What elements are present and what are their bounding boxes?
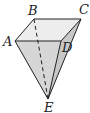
label-a: A	[2, 34, 12, 49]
label-c: C	[79, 2, 89, 17]
pyramid-diagram: A B C D E	[0, 0, 90, 113]
label-d: D	[61, 40, 73, 55]
label-e: E	[43, 100, 54, 113]
label-b: B	[27, 3, 38, 18]
